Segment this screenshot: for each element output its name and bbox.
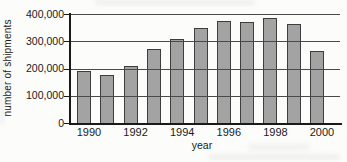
x-axis-title: year xyxy=(182,139,222,151)
y-tick-label: 200,000 xyxy=(0,62,64,75)
x-tick-label: 2000 xyxy=(302,126,342,139)
gridline-200000 xyxy=(71,69,340,70)
x-tick-label: 1998 xyxy=(255,126,295,139)
bar-1996 xyxy=(217,21,231,123)
y-tick-label: 0 xyxy=(0,117,64,130)
gridline-400000 xyxy=(71,14,340,15)
scan-artifact xyxy=(208,154,340,160)
x-axis-line xyxy=(69,123,342,125)
bar-1999 xyxy=(287,24,301,123)
shipments-bar-chart-figure: number of shipments 0100,000200,000300,0… xyxy=(0,0,347,162)
y-tick-label: 100,000 xyxy=(0,89,64,102)
x-tick-label: 1990 xyxy=(69,126,109,139)
bar-1990 xyxy=(77,71,91,123)
bar-1997 xyxy=(240,22,254,123)
bar-1998 xyxy=(263,18,277,123)
y-axis-line xyxy=(69,13,71,124)
plot-area xyxy=(71,14,340,123)
scan-artifact xyxy=(248,143,310,151)
bar-1992 xyxy=(124,66,138,123)
scan-artifact xyxy=(95,0,255,5)
bar-1991 xyxy=(100,75,114,123)
x-tick-label: 1994 xyxy=(162,126,202,139)
gridline-100000 xyxy=(71,96,340,97)
y-tick-label: 300,000 xyxy=(0,35,64,48)
x-tick-label: 1996 xyxy=(209,126,249,139)
y-tick-label: 400,000 xyxy=(0,8,64,21)
bar-1994 xyxy=(170,39,184,123)
bar-1993 xyxy=(147,49,161,123)
x-tick-label: 1992 xyxy=(116,126,156,139)
bar-2000 xyxy=(310,51,324,123)
gridline-300000 xyxy=(71,41,340,42)
